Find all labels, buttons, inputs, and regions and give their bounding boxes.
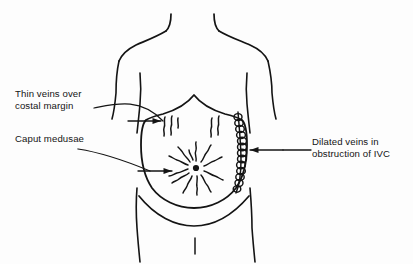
label-thin-veins-line1: Thin veins over	[15, 88, 82, 100]
label-caput-medusae-line1: Caput medusae	[15, 133, 84, 145]
costal-vein-group-right	[211, 116, 219, 137]
left-shoulder-outline	[119, 31, 166, 61]
left-arm-outer-outline	[112, 61, 119, 119]
arrow-dilated	[250, 147, 283, 153]
abdomen-shield-outline	[141, 95, 247, 208]
abdominal-venous-diagram	[0, 0, 413, 264]
label-dilated-veins-ivc: Dilated veins in obstruction of IVC	[312, 136, 390, 160]
right-arm-inner-outline	[246, 73, 250, 133]
leader-line-caput	[78, 149, 150, 171]
label-caput-medusae: Caput medusae	[15, 133, 84, 145]
costal-vein-group-left	[164, 116, 179, 136]
label-thin-veins-line2: costal margin	[15, 100, 82, 112]
left-arm-inner-outline	[137, 73, 141, 133]
groin-crease	[139, 196, 249, 226]
left-hip-outline	[136, 188, 140, 262]
umbilicus-dot	[193, 165, 199, 171]
neck-left-outline	[166, 14, 171, 31]
label-dilated-line2: obstruction of IVC	[312, 148, 390, 160]
right-hip-outline	[250, 188, 255, 262]
diagram-page: Thin veins over costal margin Caput medu…	[0, 0, 413, 264]
right-arm-outer-outline	[268, 61, 276, 119]
right-shoulder-outline	[219, 31, 268, 61]
label-thin-veins-over-costal-margin: Thin veins over costal margin	[15, 88, 82, 112]
neck-right-outline	[214, 14, 219, 31]
label-dilated-line1: Dilated veins in	[312, 136, 390, 148]
